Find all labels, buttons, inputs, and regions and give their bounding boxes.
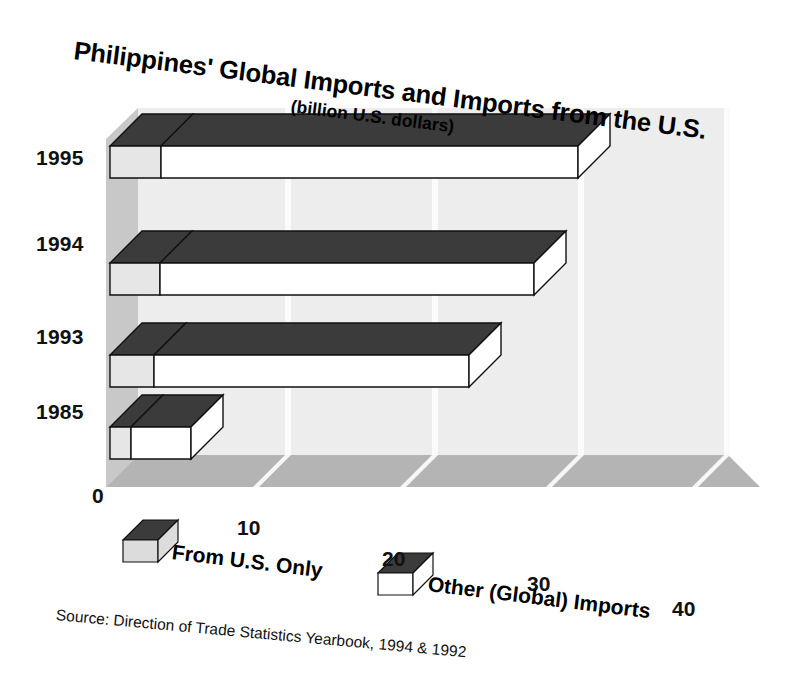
bar-1995-segment-other-front: [161, 146, 578, 178]
bar-1985-segment-other-front: [131, 427, 191, 459]
x-axis-tick-20: 20: [382, 547, 405, 571]
y-axis-label-1993: 1993: [36, 325, 84, 349]
y-axis-label-1985: 1985: [36, 400, 84, 424]
x-axis-tick-0: 0: [92, 484, 104, 508]
bar-1994-segment-other-front: [160, 263, 534, 295]
chart-root: 1995 1994 1993 1985 0 10 20 30 40 Philip…: [0, 0, 795, 695]
bar-1994-segment-other-top: [160, 231, 566, 263]
bar-group-1993: [110, 323, 501, 387]
x-axis-tick-10: 10: [237, 516, 260, 540]
y-axis-label-1995: 1995: [36, 146, 84, 170]
x-axis-tick-40: 40: [672, 597, 695, 621]
bar-1994-segment-us-front: [110, 263, 160, 295]
bar-1985-segment-us-front: [110, 427, 131, 459]
bar-1995-segment-us-front: [110, 146, 161, 178]
bar-1993-segment-other-front: [154, 355, 469, 387]
legend-swatch-from-us-only: [123, 520, 178, 562]
y-axis-label-1994: 1994: [36, 232, 84, 256]
bar-1993-segment-us-front: [110, 355, 154, 387]
bar-group-1994: [110, 231, 566, 295]
bar-1993-segment-other-top: [154, 323, 501, 355]
